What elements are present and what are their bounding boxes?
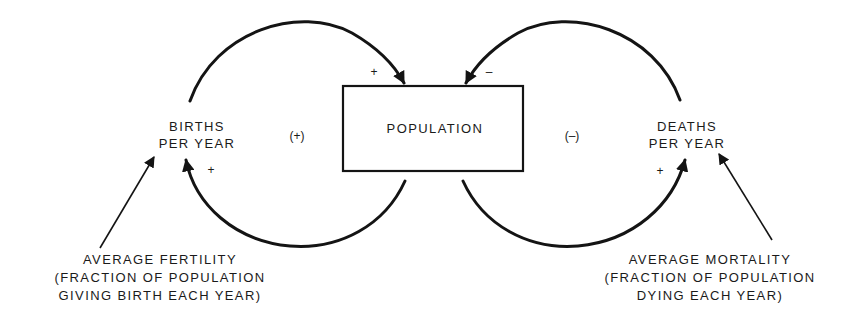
population-to-births-sign: + xyxy=(207,163,214,177)
fertility-line1: AVERAGE FERTILITY xyxy=(83,252,237,267)
mortality-line3: DYING EACH YEAR) xyxy=(637,288,783,303)
fertility-line3: GIVING BIRTH EACH YEAR) xyxy=(59,288,262,303)
population-to-deaths-arrow xyxy=(463,160,685,246)
fertility-line2: (FRACTION OF POPULATION xyxy=(54,270,265,285)
deaths-loop-polarity: (–) xyxy=(565,129,580,143)
average-fertility-node: AVERAGE FERTILITY (FRACTION OF POPULATIO… xyxy=(54,252,265,303)
births-loop-polarity: (+) xyxy=(290,129,305,143)
population-to-births-arrow xyxy=(186,160,405,246)
mortality-line1: AVERAGE MORTALITY xyxy=(629,252,792,267)
births-to-population-sign: + xyxy=(370,65,377,79)
births-per-year-node: BIRTHS PER YEAR xyxy=(159,119,236,151)
deaths-to-population-sign: – xyxy=(486,65,493,79)
deaths-label-line1: DEATHS xyxy=(657,119,717,134)
causal-loop-diagram: POPULATION BIRTHS PER YEAR DEATHS PER YE… xyxy=(0,0,868,329)
population-stock: POPULATION xyxy=(343,86,523,171)
population-to-deaths-sign: + xyxy=(656,164,663,178)
average-mortality-node: AVERAGE MORTALITY (FRACTION OF POPULATIO… xyxy=(604,252,815,303)
births-label-line2: PER YEAR xyxy=(159,136,236,151)
deaths-per-year-node: DEATHS PER YEAR xyxy=(649,119,726,151)
mortality-line2: (FRACTION OF POPULATION xyxy=(604,270,815,285)
deaths-label-line2: PER YEAR xyxy=(649,136,726,151)
fertility-to-births-arrow xyxy=(100,157,154,248)
mortality-to-deaths-arrow xyxy=(719,154,772,240)
population-label: POPULATION xyxy=(387,121,484,136)
births-label-line1: BIRTHS xyxy=(169,119,225,134)
